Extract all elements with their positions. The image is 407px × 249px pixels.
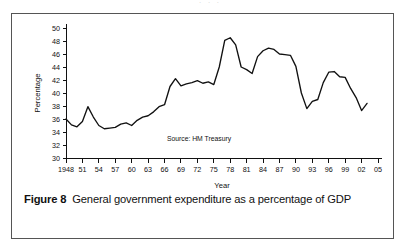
x-axis-tick-label: 05 <box>374 165 382 174</box>
x-axis-tick-label: 96 <box>325 165 333 174</box>
x-axis-tick-label: 84 <box>259 165 267 174</box>
figure-page: · · · 3032343638404244464850194851545760… <box>0 0 407 249</box>
page-bleed-text: · · · <box>150 0 270 10</box>
figure-number: Figure 8 <box>24 193 66 205</box>
x-axis-tick-label: 69 <box>177 165 185 174</box>
figure-caption: Figure 8 General government expenditure … <box>24 192 384 206</box>
y-axis-tick-label: 44 <box>52 63 60 72</box>
figure-caption-text: General government expenditure as a perc… <box>72 193 351 205</box>
y-axis-tick-label: 36 <box>52 115 60 124</box>
y-axis-title: Percentage <box>33 74 42 113</box>
chart-plot-area: 3032343638404244464850194851545760636669… <box>12 14 395 190</box>
y-axis-tick-label: 30 <box>52 154 60 163</box>
x-axis-tick-label: 60 <box>128 165 136 174</box>
data-series-line <box>66 38 367 129</box>
x-axis-tick-label: 02 <box>358 165 366 174</box>
x-axis-tick-label: 72 <box>193 165 201 174</box>
x-axis-tick-label: 87 <box>275 165 283 174</box>
x-axis-tick-label: 63 <box>144 165 152 174</box>
x-axis-tick-label: 81 <box>243 165 251 174</box>
x-axis-tick-label: 1948 <box>58 165 74 174</box>
y-axis-tick-label: 48 <box>52 37 60 46</box>
y-axis-tick-label: 34 <box>52 128 60 137</box>
source-annotation: Source: HM Treasury <box>167 135 232 143</box>
x-axis-tick-label: 99 <box>341 165 349 174</box>
x-axis-tick-label: 75 <box>210 165 218 174</box>
line-chart: 3032343638404244464850194851545760636669… <box>12 14 395 190</box>
y-axis-tick-label: 40 <box>52 89 60 98</box>
x-axis-tick-label: 54 <box>95 165 103 174</box>
x-axis-tick-label: 66 <box>161 165 169 174</box>
x-axis-tick-label: 51 <box>78 165 86 174</box>
y-axis-tick-label: 42 <box>52 76 60 85</box>
x-axis-tick-label: 78 <box>226 165 234 174</box>
figure-box: 3032343638404244464850194851545760636669… <box>11 13 394 239</box>
y-axis-tick-label: 38 <box>52 102 60 111</box>
y-axis-tick-label: 32 <box>52 141 60 150</box>
x-axis-tick-label: 90 <box>292 165 300 174</box>
x-axis-title: Year <box>214 181 230 190</box>
y-axis-tick-label: 50 <box>52 24 60 33</box>
x-axis-tick-label: 93 <box>308 165 316 174</box>
x-axis-tick-label: 57 <box>111 165 119 174</box>
y-axis-tick-label: 46 <box>52 50 60 59</box>
